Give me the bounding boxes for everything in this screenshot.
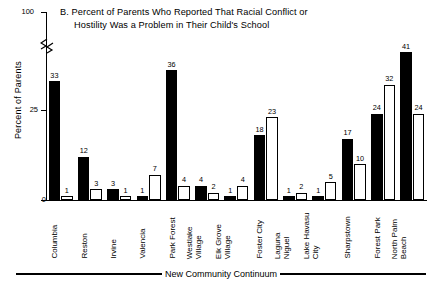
bar-group: 364 — [163, 12, 192, 200]
bar-filled — [312, 196, 324, 200]
bar-filled — [224, 196, 236, 200]
bar-value-label: 33 — [47, 72, 63, 80]
bar-filled — [283, 196, 295, 200]
bar-group: 2432 — [368, 12, 397, 200]
bar-open — [149, 175, 161, 200]
bar-value-label: 24 — [411, 104, 427, 112]
category-label: Sharpstown — [339, 203, 368, 259]
bar-open — [90, 189, 102, 200]
bar-open — [208, 193, 220, 200]
category-label: Columbia — [46, 203, 75, 259]
bar-open — [266, 117, 278, 200]
category-label: Irvine — [105, 203, 134, 259]
bar-group: 12 — [280, 12, 309, 200]
bar-value-label: 1 — [222, 187, 238, 195]
bar-value-label: 17 — [340, 129, 356, 137]
bar-group: 331 — [46, 12, 75, 200]
y-tick-label-100: 100 — [14, 7, 34, 16]
caption-rule-left — [16, 273, 162, 274]
bar-group: 1710 — [339, 12, 368, 200]
bar-open — [354, 164, 366, 200]
bar-open — [120, 196, 132, 200]
x-axis-label: New Community Continuum — [162, 269, 280, 279]
y-axis-label: Percent of Parents — [13, 30, 23, 170]
bar-value-label: 1 — [59, 187, 75, 195]
bar-value-label: 41 — [398, 43, 414, 51]
bar-value-label: 4 — [176, 176, 192, 184]
bar-open — [325, 182, 337, 200]
bar-filled — [342, 139, 354, 200]
bar-group: 1823 — [251, 12, 280, 200]
y-tick-label-0: 0 — [26, 195, 46, 204]
category-label: Elk GroveVillage — [222, 203, 251, 259]
bar-open — [61, 196, 73, 200]
bar-value-label: 24 — [369, 104, 385, 112]
bar-open — [384, 85, 396, 200]
bar-value-label: 18 — [252, 126, 268, 134]
bar-group: 42 — [193, 12, 222, 200]
bar-value-label: 1 — [310, 187, 326, 195]
bar-open — [237, 186, 249, 200]
bar-filled — [371, 114, 383, 200]
bar-value-label: 4 — [235, 176, 251, 184]
bar-open — [178, 186, 190, 200]
bar-open — [296, 193, 308, 200]
bar-filled — [49, 81, 61, 200]
bar-value-label: 3 — [88, 180, 104, 188]
bar-value-label: 1 — [118, 187, 134, 195]
bar-value-label: 1 — [135, 187, 151, 195]
bar-group: 14 — [222, 12, 251, 200]
x-axis-caption: New Community Continuum — [16, 268, 426, 280]
bar-value-label: 2 — [206, 183, 222, 191]
plot-area: 3311233117364421418231215171024324124 — [46, 12, 427, 200]
bar-filled — [254, 135, 266, 200]
category-label: Valencia — [134, 203, 163, 259]
bar-filled — [137, 196, 149, 200]
bar-filled — [400, 52, 412, 200]
bar-value-label: 7 — [147, 165, 163, 173]
caption-rule-right — [280, 273, 426, 274]
category-label: North PalmBeach — [398, 203, 427, 259]
chart-figure: B. Percent of Parents Who Reported That … — [0, 0, 434, 289]
bar-value-label: 12 — [76, 147, 92, 155]
bar-value-label: 10 — [352, 155, 368, 163]
bar-value-label: 23 — [264, 108, 280, 116]
x-axis-line — [46, 200, 427, 201]
bar-value-label: 5 — [323, 173, 339, 181]
y-tick-label-25: 25 — [18, 105, 38, 114]
bar-group: 15 — [310, 12, 339, 200]
bar-value-label: 32 — [382, 75, 398, 83]
category-axis-labels: ColumbiaRestonIrvineValenciaPark ForestW… — [46, 203, 427, 261]
bar-open — [413, 114, 425, 200]
bar-group: 4124 — [398, 12, 427, 200]
bar-group: 31 — [105, 12, 134, 200]
bar-value-label: 2 — [294, 183, 310, 191]
bar-value-label: 36 — [164, 61, 180, 69]
bar-group: 123 — [75, 12, 104, 200]
category-label: Lake HavasuCity — [310, 203, 339, 259]
bar-group: 17 — [134, 12, 163, 200]
category-label: Reston — [75, 203, 104, 259]
bar-filled — [78, 157, 90, 200]
